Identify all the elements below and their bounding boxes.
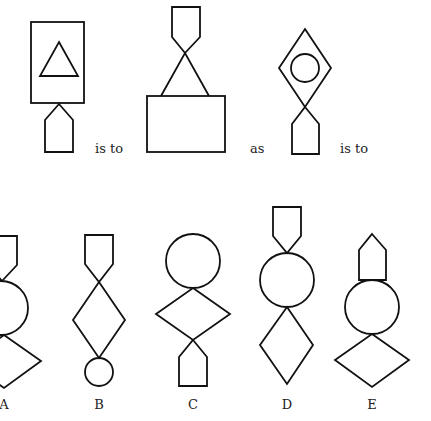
pentagon-down-shape bbox=[0, 236, 17, 281]
diamond-shape bbox=[260, 307, 313, 384]
pentagon-up-shape bbox=[359, 234, 386, 280]
stem-figure-3 bbox=[279, 29, 331, 154]
option-b[interactable]: B bbox=[73, 235, 125, 412]
option-label-c: C bbox=[188, 397, 198, 412]
diamond-shape bbox=[335, 334, 409, 387]
stem-figure-2 bbox=[147, 7, 225, 152]
option-d[interactable]: D bbox=[260, 207, 314, 412]
diamond-shape bbox=[73, 282, 125, 358]
connector-as: as bbox=[250, 141, 264, 156]
option-a[interactable]: A bbox=[0, 236, 41, 412]
stem-figure-1 bbox=[31, 22, 84, 152]
option-c[interactable]: C bbox=[156, 234, 230, 412]
circle-shape bbox=[85, 358, 113, 386]
option-label-a: A bbox=[0, 397, 9, 412]
pentagon-down-shape bbox=[273, 207, 301, 253]
diamond-shape bbox=[279, 29, 331, 107]
circle-shape bbox=[345, 280, 399, 334]
analogy-diagram: is to as is to A B C D bbox=[0, 0, 431, 421]
pentagon-up-shape bbox=[45, 104, 73, 152]
pentagon-down-shape bbox=[172, 7, 200, 53]
pentagon-up-shape bbox=[292, 107, 319, 154]
option-label-d: D bbox=[282, 397, 292, 412]
circle-shape bbox=[0, 281, 28, 335]
option-label-e: E bbox=[367, 397, 377, 412]
option-label-b: B bbox=[94, 397, 104, 412]
circle-shape bbox=[291, 54, 319, 82]
diamond-shape bbox=[156, 288, 230, 340]
triangle-shape bbox=[40, 42, 78, 76]
pentagon-down-shape bbox=[85, 235, 113, 282]
circle-shape bbox=[260, 253, 314, 307]
pentagon-up-shape bbox=[179, 340, 207, 386]
connector-is-to-2: is to bbox=[340, 141, 368, 156]
connector-is-to-1: is to bbox=[95, 141, 123, 156]
circle-shape bbox=[166, 234, 220, 288]
rectangle-shape bbox=[147, 96, 225, 152]
open-triangle-shape bbox=[161, 53, 209, 96]
rectangle-shape bbox=[31, 22, 84, 103]
option-e[interactable]: E bbox=[335, 234, 409, 412]
diamond-shape bbox=[0, 335, 41, 388]
